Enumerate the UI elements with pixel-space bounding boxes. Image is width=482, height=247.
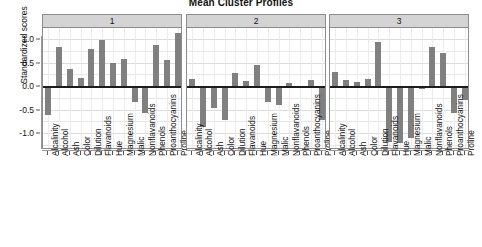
- x-tick-mark: [112, 151, 113, 155]
- x-tick-mark: [191, 151, 192, 155]
- x-tick-mark: [464, 151, 465, 155]
- x-tick-mark: [80, 151, 81, 155]
- bar: [375, 42, 381, 86]
- gridline-vertical: [357, 28, 358, 148]
- x-tick-label: Proanthocyanins: [169, 94, 177, 156]
- x-tick-mark: [367, 151, 368, 155]
- x-tick-label: Flavanoids: [391, 116, 399, 156]
- zero-baseline: [43, 86, 181, 88]
- bar: [99, 40, 105, 86]
- x-tick-mark: [245, 151, 246, 155]
- x-tick-label: Proline: [467, 130, 475, 156]
- gridline-vertical: [70, 28, 71, 148]
- x-tick-mark: [90, 151, 91, 155]
- gridline-horizontal: [43, 110, 181, 111]
- x-tick-mark: [334, 151, 335, 155]
- bar: [265, 86, 271, 102]
- x-tick-mark: [123, 151, 124, 155]
- x-tick-label: Magnesium: [413, 113, 421, 156]
- x-tick-mark: [267, 151, 268, 155]
- panel-strip-label: 2: [186, 14, 326, 28]
- gridline-vertical: [289, 28, 290, 148]
- gridline-horizontal: [43, 39, 181, 40]
- panel-strip-label: 3: [329, 14, 469, 28]
- x-tick-mark: [310, 151, 311, 155]
- x-tick-mark: [155, 151, 156, 155]
- y-tick-label: 0.0: [22, 81, 34, 91]
- bar: [429, 47, 435, 86]
- gridline-horizontal: [187, 98, 325, 99]
- y-tick-mark: [36, 109, 40, 110]
- bar: [56, 47, 62, 86]
- x-tick-mark: [399, 151, 400, 155]
- x-tick-mark: [356, 151, 357, 155]
- gridline-horizontal: [43, 51, 181, 52]
- bar: [189, 79, 195, 86]
- gridline-vertical: [257, 28, 258, 148]
- x-tick-mark: [177, 151, 178, 155]
- bar: [132, 86, 138, 102]
- x-tick-label: Flavanoids: [248, 116, 256, 156]
- gridline-vertical: [192, 28, 193, 148]
- x-tick-mark: [431, 151, 432, 155]
- x-tick-label: Magnesium: [126, 113, 134, 156]
- x-tick-label: Nonflavanoids: [148, 103, 156, 156]
- gridline-vertical: [335, 28, 336, 148]
- x-tick-mark: [453, 151, 454, 155]
- y-tick-label: 0.5: [22, 58, 34, 68]
- bar: [254, 65, 260, 86]
- x-tick-mark: [144, 151, 145, 155]
- y-tick-label: -1.0: [19, 128, 34, 138]
- bar: [276, 86, 282, 105]
- chart-root: Mean Cluster Profiles Standardized score…: [0, 0, 482, 247]
- gridline-horizontal: [187, 110, 325, 111]
- panel-strip-label: 1: [42, 14, 182, 28]
- x-tick-mark: [421, 151, 422, 155]
- x-tick-mark: [166, 151, 167, 155]
- bar: [222, 86, 228, 120]
- gridline-vertical: [113, 28, 114, 148]
- x-tick-mark: [388, 151, 389, 155]
- gridline-horizontal: [330, 63, 468, 64]
- x-tick-label: Flavanoids: [104, 116, 112, 156]
- gridline-vertical: [91, 28, 92, 148]
- x-tick-mark: [69, 151, 70, 155]
- zero-baseline: [330, 86, 468, 88]
- bar: [78, 78, 84, 86]
- y-tick-mark: [36, 86, 40, 87]
- gridline-vertical: [368, 28, 369, 148]
- bar: [232, 73, 238, 86]
- bar: [164, 60, 170, 86]
- gridline-vertical: [235, 28, 236, 148]
- bar: [153, 45, 159, 86]
- x-tick-mark: [278, 151, 279, 155]
- x-tick-label: Nonflavanoids: [435, 103, 443, 156]
- bar: [121, 59, 127, 86]
- bar: [175, 33, 181, 86]
- x-tick-mark: [213, 151, 214, 155]
- x-tick-mark: [58, 151, 59, 155]
- gridline-horizontal: [43, 98, 181, 99]
- bar: [110, 63, 116, 86]
- x-tick-mark: [377, 151, 378, 155]
- x-tick-label: Proanthocyanins: [456, 94, 464, 156]
- y-axis-ticks: 1.00.50.0-0.5-1.0: [0, 0, 42, 247]
- x-tick-mark: [234, 151, 235, 155]
- y-tick-label: -0.5: [19, 105, 34, 115]
- bar: [67, 69, 73, 86]
- bar: [45, 86, 51, 115]
- gridline-horizontal: [187, 51, 325, 52]
- bar: [200, 86, 206, 127]
- y-tick-label: 1.0: [22, 34, 34, 44]
- x-tick-mark: [288, 151, 289, 155]
- gridline-horizontal: [187, 39, 325, 40]
- gridline-vertical: [432, 28, 433, 148]
- x-tick-mark: [442, 151, 443, 155]
- gridline-horizontal: [187, 63, 325, 64]
- x-tick-mark: [134, 151, 135, 155]
- zero-baseline: [187, 86, 325, 88]
- x-tick-label: Proanthocyanins: [313, 94, 321, 156]
- bar: [365, 79, 371, 86]
- gridline-vertical: [81, 28, 82, 148]
- x-tick-mark: [202, 151, 203, 155]
